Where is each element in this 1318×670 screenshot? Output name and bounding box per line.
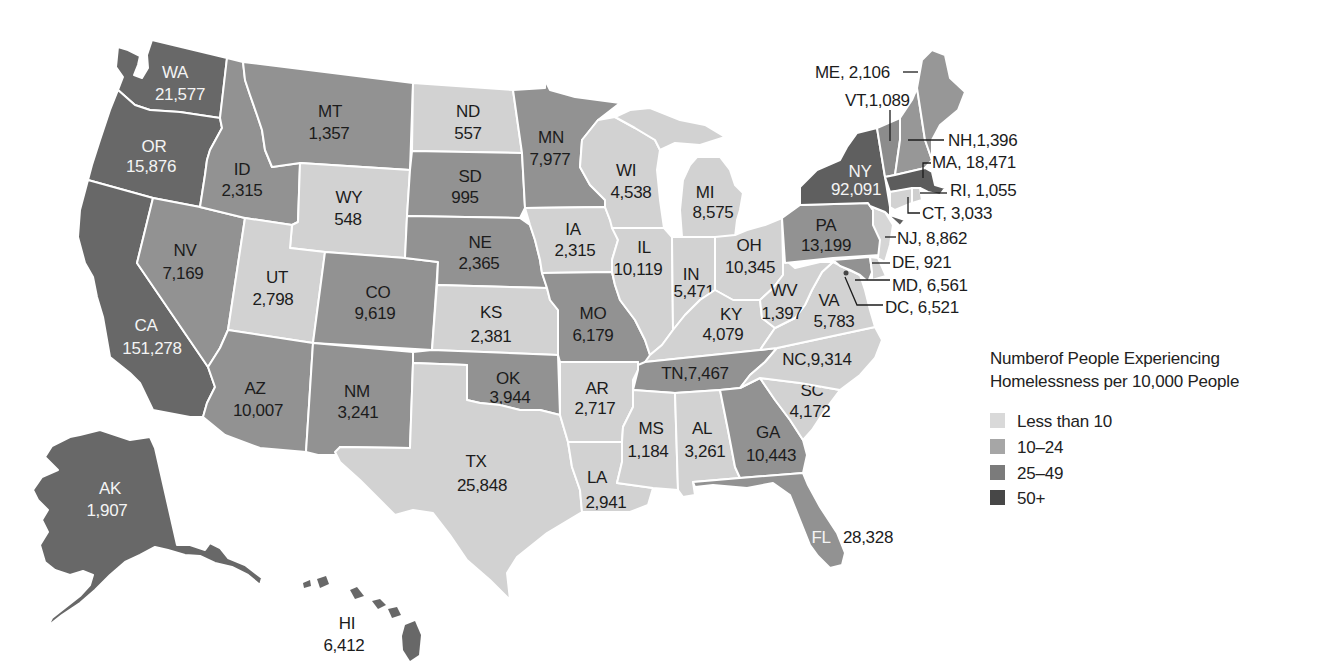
state-mi-abbr: MI bbox=[696, 183, 714, 202]
state-ny-abbr: NY bbox=[848, 162, 871, 181]
state-nd-value: 557 bbox=[454, 124, 481, 143]
state-la-value: 2,941 bbox=[585, 493, 626, 512]
state-ms-value: 1,184 bbox=[627, 442, 668, 461]
state-nm-abbr: NM bbox=[344, 382, 370, 401]
state-nd-abbr: ND bbox=[456, 102, 480, 121]
state-mi-value: 8,575 bbox=[692, 203, 733, 222]
legend-swatch bbox=[990, 490, 1005, 505]
legend-title-line2: Homelessness per 10,000 People bbox=[990, 372, 1239, 391]
state-ny-value: 92,091 bbox=[831, 180, 881, 199]
legend-item: 25–49 bbox=[990, 464, 1063, 483]
state-hi-oahu-shape bbox=[317, 576, 329, 588]
callout-me-label: ME, 2,106 bbox=[815, 63, 890, 82]
state-wi-abbr: WI bbox=[616, 161, 636, 180]
state-al-value: 3,261 bbox=[684, 442, 725, 461]
legend-swatch bbox=[990, 465, 1005, 480]
state-ia-value: 2,315 bbox=[554, 241, 595, 260]
state-mt-value: 1,357 bbox=[308, 124, 349, 143]
legend-swatch bbox=[990, 439, 1005, 454]
state-ks: KS 2,381 bbox=[432, 285, 558, 355]
state-nv-value: 7,169 bbox=[162, 264, 203, 283]
callout-ct-label: CT, 3,033 bbox=[922, 204, 992, 223]
callout-dc-label: DC, 6,521 bbox=[885, 298, 959, 317]
state-va-value: 5,783 bbox=[813, 312, 854, 331]
state-mn-value: 7,977 bbox=[529, 150, 570, 169]
state-mo-value: 6,179 bbox=[572, 326, 613, 345]
state-hi-value: 6,412 bbox=[323, 636, 364, 655]
state-mn-abbr: MN bbox=[538, 128, 564, 147]
state-ar-value: 2,717 bbox=[574, 399, 615, 418]
state-hi-abbr: HI bbox=[339, 614, 355, 633]
state-hi-molokai-shape bbox=[350, 587, 364, 599]
us-homelessness-map: WA 21,577 OR 15,876 CA 151,278 NV 7,169 … bbox=[0, 0, 1318, 670]
state-ar-abbr: AR bbox=[585, 379, 608, 398]
state-pa-abbr: PA bbox=[816, 216, 838, 235]
state-la-abbr: LA bbox=[587, 468, 608, 487]
state-fl-shape bbox=[693, 473, 845, 568]
state-co-value: 9,619 bbox=[354, 304, 395, 323]
state-or-value: 15,876 bbox=[126, 157, 176, 176]
legend-label: 50+ bbox=[1017, 489, 1046, 508]
state-dc-shape bbox=[844, 271, 849, 276]
legend: Numberof People Experiencing Homelessnes… bbox=[990, 349, 1239, 508]
state-id-value: 2,315 bbox=[221, 181, 262, 200]
legend-label: 10–24 bbox=[1017, 438, 1063, 457]
callout-md-label: MD, 6,561 bbox=[892, 276, 968, 295]
callout-vt-label: VT,1,089 bbox=[845, 91, 910, 110]
state-oh-value: 10,345 bbox=[725, 258, 775, 277]
state-ks-value: 2,381 bbox=[470, 327, 511, 346]
state-fl-abbr: FL bbox=[811, 528, 830, 547]
state-ak-shape bbox=[33, 430, 262, 626]
state-ri-shape bbox=[912, 188, 922, 203]
state-pa: PA 13,199 bbox=[782, 203, 883, 263]
state-nc-label: NC,9,314 bbox=[782, 350, 851, 369]
state-az-abbr: AZ bbox=[244, 379, 265, 398]
callout-de-label: DE, 921 bbox=[892, 253, 951, 272]
legend-swatch bbox=[990, 413, 1005, 428]
state-sc-value: 4,172 bbox=[789, 402, 830, 421]
state-tn-label: TN,7,467 bbox=[661, 364, 729, 383]
state-fl-value: 28,328 bbox=[843, 528, 893, 547]
state-ne-abbr: NE bbox=[468, 233, 491, 252]
state-ga-value: 10,443 bbox=[746, 446, 796, 465]
state-mo-abbr: MO bbox=[580, 304, 607, 323]
state-fl: FL 28,328 bbox=[693, 473, 893, 568]
callout-ma-label: MA, 18,471 bbox=[932, 153, 1016, 172]
callout-nj-label: NJ, 8,862 bbox=[897, 229, 967, 248]
state-oh-abbr: OH bbox=[737, 236, 762, 255]
state-ut-value: 2,798 bbox=[252, 290, 293, 309]
state-ca-value: 151,278 bbox=[122, 339, 181, 358]
state-nd: ND 557 bbox=[412, 83, 522, 153]
legend-item: 10–24 bbox=[990, 438, 1063, 457]
state-ok-abbr: OK bbox=[496, 369, 521, 388]
state-wa-abbr: WA bbox=[162, 63, 189, 82]
state-ky-abbr: KY bbox=[720, 305, 742, 324]
state-co-abbr: CO bbox=[366, 283, 391, 302]
state-va-abbr: VA bbox=[819, 291, 841, 310]
state-ca-abbr: CA bbox=[134, 316, 158, 335]
legend-item: 50+ bbox=[990, 489, 1046, 508]
state-nm-value: 3,241 bbox=[337, 403, 378, 422]
state-nm: NM 3,241 bbox=[306, 343, 413, 455]
state-hi: HI 6,412 bbox=[303, 576, 421, 661]
state-sd-value: 995 bbox=[451, 188, 478, 207]
legend-item: Less than 10 bbox=[990, 412, 1112, 431]
state-hi-kauai-shape bbox=[303, 580, 311, 588]
state-il-value: 10,119 bbox=[614, 260, 663, 279]
state-az: AZ 10,007 bbox=[203, 330, 313, 452]
state-ky-value: 4,079 bbox=[702, 325, 743, 344]
state-mt: MT 1,357 bbox=[243, 62, 413, 170]
state-wy-value: 548 bbox=[334, 210, 361, 229]
state-wa-value: 21,577 bbox=[155, 85, 205, 104]
state-ia-abbr: IA bbox=[565, 220, 581, 239]
state-wv-abbr: WV bbox=[771, 281, 799, 300]
state-ne-value: 2,365 bbox=[458, 254, 499, 273]
callout-ri-label: RI, 1,055 bbox=[950, 181, 1016, 200]
state-ut-abbr: UT bbox=[266, 268, 288, 287]
state-nv-abbr: NV bbox=[173, 241, 197, 260]
state-il-abbr: IL bbox=[637, 238, 651, 257]
state-ct bbox=[890, 188, 912, 210]
state-wy: WY 548 bbox=[290, 163, 410, 258]
state-or-abbr: OR bbox=[142, 137, 167, 156]
state-ri bbox=[912, 188, 922, 203]
